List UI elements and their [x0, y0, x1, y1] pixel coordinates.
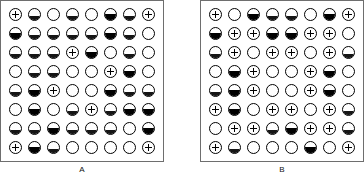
open-circle-icon — [9, 65, 22, 78]
grid-cell — [139, 138, 158, 157]
filled-circle-icon — [247, 8, 260, 21]
panel-b-grid — [200, 0, 364, 162]
plus-in-circle-icon — [228, 46, 241, 59]
panel-a: A — [0, 0, 164, 175]
grid-cell — [225, 5, 244, 24]
grid-cell — [320, 138, 339, 157]
half-filled-circle-icon — [28, 122, 41, 135]
grid-cell — [63, 100, 82, 119]
filled-circle-icon — [104, 84, 117, 97]
plus-in-circle-icon — [342, 8, 355, 21]
grid-cell — [282, 100, 301, 119]
grid-cell — [44, 138, 63, 157]
filled-circle-icon — [285, 27, 298, 40]
grid-cell — [25, 138, 44, 157]
grid-cell — [282, 119, 301, 138]
plus-in-circle-icon — [66, 46, 79, 59]
grid-cell — [206, 119, 225, 138]
grid-cell — [244, 100, 263, 119]
half-filled-circle-icon — [266, 122, 279, 135]
open-circle-icon — [104, 46, 117, 59]
plus-in-circle-icon — [342, 141, 355, 154]
grid-cell — [82, 24, 101, 43]
grid-cell — [320, 119, 339, 138]
open-circle-icon — [104, 141, 117, 154]
open-circle-icon — [9, 103, 22, 116]
plus-in-circle-icon — [266, 46, 279, 59]
plus-in-circle-icon — [266, 103, 279, 116]
grid-cell — [263, 43, 282, 62]
half-filled-circle-icon — [28, 27, 41, 40]
grid-cell — [282, 43, 301, 62]
plus-in-circle-icon — [228, 27, 241, 40]
half-filled-circle-icon — [342, 122, 355, 135]
grid-cell — [301, 24, 320, 43]
grid-cell — [139, 5, 158, 24]
grid-cell — [44, 43, 63, 62]
grid-cell — [320, 43, 339, 62]
open-circle-icon — [85, 141, 98, 154]
half-filled-circle-icon — [47, 65, 60, 78]
open-circle-icon — [285, 141, 298, 154]
grid-cell — [282, 62, 301, 81]
open-circle-icon — [285, 65, 298, 78]
half-filled-circle-icon — [142, 84, 155, 97]
open-circle-icon — [285, 84, 298, 97]
grid-cell — [82, 119, 101, 138]
grid-cell — [339, 138, 358, 157]
grid-cell — [244, 138, 263, 157]
plus-in-circle-icon — [285, 46, 298, 59]
grid-cell — [63, 119, 82, 138]
grid-cell — [206, 81, 225, 100]
half-filled-circle-icon — [123, 8, 136, 21]
filled-circle-icon — [104, 27, 117, 40]
plus-in-circle-icon — [228, 122, 241, 135]
panel-a-label: A — [79, 165, 85, 175]
grid-cell — [25, 24, 44, 43]
filled-circle-icon — [28, 141, 41, 154]
grid-cell — [301, 138, 320, 157]
grid-cell — [101, 24, 120, 43]
plus-in-circle-icon — [142, 8, 155, 21]
grid-cell — [120, 81, 139, 100]
plus-in-circle-icon — [247, 122, 260, 135]
open-circle-icon — [123, 122, 136, 135]
grid-cell — [63, 5, 82, 24]
grid-cell — [101, 81, 120, 100]
grid-cell — [82, 43, 101, 62]
open-circle-icon — [66, 141, 79, 154]
open-circle-icon — [247, 141, 260, 154]
filled-circle-icon — [323, 8, 336, 21]
half-filled-circle-icon — [47, 141, 60, 154]
grid-cell — [282, 5, 301, 24]
filled-circle-icon — [142, 122, 155, 135]
plus-in-circle-icon — [9, 141, 22, 154]
grid-cell — [25, 43, 44, 62]
grid-cell — [139, 81, 158, 100]
grid-cell — [263, 24, 282, 43]
grid-cell — [82, 62, 101, 81]
plus-in-circle-icon — [209, 8, 222, 21]
grid-cell — [139, 43, 158, 62]
half-filled-circle-icon — [66, 27, 79, 40]
plus-in-circle-icon — [304, 65, 317, 78]
grid-cell — [225, 138, 244, 157]
grid-cell — [82, 138, 101, 157]
grid-cell — [101, 119, 120, 138]
grid-cell — [101, 5, 120, 24]
panel-b: B — [200, 0, 364, 175]
filled-circle-icon — [304, 141, 317, 154]
filled-circle-icon — [285, 122, 298, 135]
half-filled-circle-icon — [47, 27, 60, 40]
grid-cell — [44, 119, 63, 138]
grid-cell — [320, 100, 339, 119]
half-filled-circle-icon — [85, 27, 98, 40]
open-circle-icon — [142, 46, 155, 59]
plus-in-circle-icon — [304, 122, 317, 135]
grid-cell — [244, 43, 263, 62]
grid-cell — [6, 24, 25, 43]
panel-a-grid — [0, 0, 164, 162]
grid-cell — [301, 81, 320, 100]
grid-cell — [120, 24, 139, 43]
grid-cell — [63, 81, 82, 100]
